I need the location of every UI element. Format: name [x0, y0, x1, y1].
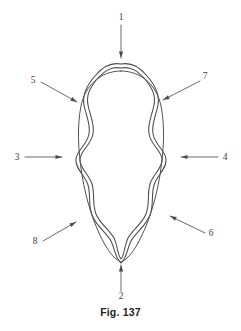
callout-5-label: 5: [31, 75, 36, 85]
callout-8-label: 8: [33, 236, 38, 246]
figure-drawing: 12345678: [0, 0, 241, 331]
callout-6-arrowhead-icon: [170, 216, 177, 221]
callout-8-arrowhead-icon: [69, 222, 76, 227]
figure-page: 12345678 Fig. 137: [0, 0, 241, 331]
callout-5-arrowhead-icon: [70, 97, 77, 102]
callout-1-arrowhead-icon: [119, 52, 123, 59]
callout-4-arrowhead-icon: [181, 155, 188, 159]
leader-arrow-group: [25, 25, 218, 291]
callout-2-arrowhead-icon: [119, 265, 123, 272]
callout-7-arrowhead-icon: [163, 95, 170, 100]
callout-2-label: 2: [119, 291, 124, 301]
callout-7-label: 7: [203, 71, 208, 81]
inner-oval: [78, 71, 163, 262]
outer-band-inner-edge: [80, 68, 162, 259]
callout-3-arrowhead-icon: [56, 155, 63, 159]
inner-oval-outline: [78, 71, 163, 262]
figure-caption: Fig. 137: [0, 306, 241, 318]
callout-1-label: 1: [119, 12, 124, 22]
callout-4-label: 4: [223, 152, 228, 162]
outer-band-outer-edge: [76, 64, 166, 263]
callout-3-label: 3: [15, 152, 20, 162]
callout-6-label: 6: [209, 228, 214, 238]
outer-wavy-band: [76, 64, 166, 263]
